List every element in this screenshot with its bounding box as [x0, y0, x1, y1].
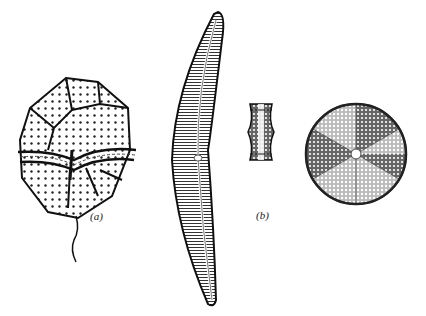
dinoflagellate [18, 78, 136, 262]
centric-diatom [306, 104, 406, 204]
diatom-girdle-view [248, 104, 274, 160]
label-a: (a) [90, 210, 103, 223]
plankton-illustration: (a) (b) [0, 0, 426, 316]
pennate-diatom [172, 12, 223, 305]
label-b: (b) [256, 209, 269, 222]
